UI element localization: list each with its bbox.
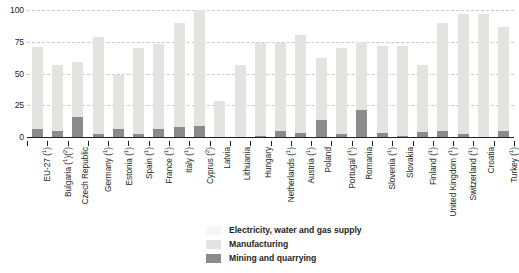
x-axis-tick xyxy=(514,141,515,146)
bar-segment xyxy=(275,131,286,137)
bar-group xyxy=(72,6,83,141)
x-axis-tick xyxy=(88,141,89,146)
bar-segment xyxy=(316,120,327,137)
legend-swatch xyxy=(206,254,221,263)
x-axis-label: Czech Republic xyxy=(81,147,89,204)
x-axis-tick xyxy=(453,141,454,146)
x-axis-tick xyxy=(250,141,251,146)
x-axis-label: Cyprus (2) xyxy=(203,147,214,184)
bar-group xyxy=(336,6,347,141)
x-axis-tick xyxy=(27,141,28,146)
x-axis-labels: EU-27 (1)Bulgaria (1)(2)Czech RepublicGe… xyxy=(27,147,514,219)
bar-segment xyxy=(72,62,83,117)
bar-group xyxy=(113,6,124,141)
x-axis-label: Bulgaria (1)(2) xyxy=(61,147,72,197)
bar-segment xyxy=(32,47,43,130)
bar-chart: 0255075100 EU-27 (1)Bulgaria (1)(2)Czech… xyxy=(0,0,519,273)
x-axis-label: Croatia xyxy=(487,147,495,173)
x-axis-label: Latvia xyxy=(223,147,231,169)
bar-segment xyxy=(194,10,205,126)
x-axis-label: Estonia (1) xyxy=(122,147,133,185)
bar-segment xyxy=(417,65,428,132)
bar-segment xyxy=(72,117,83,137)
bar-segment xyxy=(295,133,306,137)
x-axis-tick xyxy=(291,141,292,146)
bar-group xyxy=(214,6,225,141)
bar-segment xyxy=(255,136,266,137)
legend-label: Electricity, water and gas supply xyxy=(229,226,362,235)
x-axis-tick xyxy=(230,141,231,146)
y-tick-label: 25 xyxy=(0,101,24,110)
x-axis-tick xyxy=(433,141,434,146)
bar-segment xyxy=(498,27,509,131)
bar-segment xyxy=(52,65,63,131)
x-axis-label: Germany (1) xyxy=(101,147,112,192)
bar-segment xyxy=(336,48,347,134)
bar-segment xyxy=(437,131,448,137)
bar-segment xyxy=(133,134,144,137)
bar-segment xyxy=(377,46,388,134)
bar-segment xyxy=(174,23,185,127)
bar-segment xyxy=(93,134,104,137)
x-axis-tick xyxy=(108,141,109,146)
bar-group xyxy=(397,6,408,141)
bar-segment xyxy=(275,43,286,131)
x-axis-label: Finland (1) xyxy=(426,147,437,185)
bar-group xyxy=(417,6,428,141)
x-axis-tick xyxy=(413,141,414,146)
bar-group xyxy=(153,6,164,141)
y-tick-label: 0 xyxy=(0,133,24,142)
bar-segment xyxy=(93,37,104,135)
x-axis-label: EU-27 (1) xyxy=(40,147,51,181)
legend-label: Manufacturing xyxy=(229,240,288,249)
bar-segment xyxy=(133,48,144,134)
legend-item: Mining and quarrying xyxy=(206,252,362,265)
x-axis-label: Italy (1) xyxy=(182,147,193,173)
x-axis-tick xyxy=(331,141,332,146)
bar-segment xyxy=(153,44,164,129)
bar-segment xyxy=(458,134,469,137)
bar-group xyxy=(356,6,367,141)
bar-segment xyxy=(417,132,428,137)
y-tick-label: 100 xyxy=(0,6,24,15)
bar-segment xyxy=(458,14,469,135)
bar-group xyxy=(174,6,185,141)
x-axis-tick xyxy=(494,141,495,146)
legend-item: Electricity, water and gas supply xyxy=(206,224,362,237)
x-axis-label: Poland xyxy=(324,147,332,173)
bar-group xyxy=(255,6,266,141)
x-axis-label: Hungary xyxy=(264,147,272,178)
bar-group xyxy=(295,6,306,141)
x-axis-label: United Kingdom (1) xyxy=(446,147,457,216)
x-axis-tick xyxy=(473,141,474,146)
bar-group xyxy=(437,6,448,141)
x-axis-tick xyxy=(169,141,170,146)
x-axis-tick xyxy=(128,141,129,146)
x-axis-tick xyxy=(47,141,48,146)
x-axis-label: Portugal (1) xyxy=(345,147,356,189)
x-axis-label: Lithuania xyxy=(243,147,251,180)
bar-segment xyxy=(214,101,225,137)
x-axis-tick xyxy=(210,141,211,146)
x-axis-label: Turkey (1) xyxy=(507,147,518,183)
x-axis-label: Slovenia (1) xyxy=(385,147,396,190)
bar-group xyxy=(458,6,469,141)
bar-segment xyxy=(437,23,448,131)
x-axis-label: France (1) xyxy=(162,147,173,184)
bar-segment xyxy=(316,58,327,120)
x-axis-tick xyxy=(271,141,272,146)
x-axis-label: Austria (1) xyxy=(304,147,315,184)
bar-segment xyxy=(174,127,185,137)
x-axis-tick xyxy=(372,141,373,146)
x-axis-label: Spain (1) xyxy=(142,147,153,179)
bar-segment xyxy=(478,14,489,137)
x-axis-tick xyxy=(68,141,69,146)
bar-segment xyxy=(356,110,367,137)
x-axis-label: Switzerland (1) xyxy=(466,147,477,200)
bar-segment xyxy=(255,43,266,136)
bar-group xyxy=(133,6,144,141)
bar-segment xyxy=(356,42,367,111)
legend-item: Manufacturing xyxy=(206,238,362,251)
x-axis-label: Romania xyxy=(365,147,373,180)
bar-segment xyxy=(336,134,347,137)
